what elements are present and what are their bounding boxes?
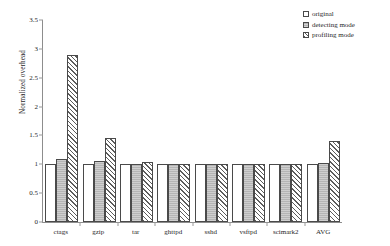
- bar-gzip-profiling-mode: [105, 138, 116, 222]
- y-axis-tick-mark: [39, 48, 43, 49]
- bar-sshd-original: [195, 164, 206, 222]
- y-axis-tick-mark: [39, 20, 43, 21]
- bar-ghttpd-original: [157, 164, 168, 222]
- bar-groups: [43, 20, 342, 222]
- x-axis-tick-label: sshd: [192, 228, 230, 236]
- x-axis-tick-label: tar: [117, 228, 155, 236]
- y-axis-tick-mark: [39, 193, 43, 194]
- bar-AVG-profiling-mode: [329, 141, 340, 222]
- bar-group: [230, 20, 267, 222]
- bar-AVG-detecting-mode: [318, 163, 329, 222]
- legend-label-detecting-mode: detecting mode: [312, 21, 355, 29]
- y-axis-tick-mark: [39, 106, 43, 107]
- bar-scimark2-detecting-mode: [280, 164, 291, 222]
- legend-item-profiling-mode: profiling mode: [303, 31, 355, 39]
- bar-AVG-original: [307, 164, 318, 222]
- legend-swatch-profiling-mode: [303, 32, 309, 38]
- y-axis-tick-mark: [39, 77, 43, 78]
- bar-group: [80, 20, 117, 222]
- legend-item-detecting-mode: detecting mode: [303, 21, 355, 29]
- bar-scimark2-original: [269, 164, 280, 222]
- plot-area: 00.511.522.533.5: [42, 20, 342, 223]
- y-axis-tick-mark: [39, 135, 43, 136]
- legend-label-profiling-mode: profiling mode: [312, 31, 354, 39]
- bar-vsftpd-detecting-mode: [243, 164, 254, 222]
- bar-sshd-detecting-mode: [206, 164, 217, 222]
- x-axis-tick-label: ctags: [42, 228, 80, 236]
- bar-gzip-original: [83, 164, 94, 222]
- x-axis-tick-mark: [229, 222, 230, 226]
- x-axis-tick-mark: [117, 222, 118, 226]
- bar-vsftpd-profiling-mode: [254, 164, 265, 222]
- bar-sshd-profiling-mode: [217, 164, 228, 222]
- bar-group: [118, 20, 155, 222]
- y-axis-tick-mark: [39, 222, 43, 223]
- bar-ctags-original: [45, 164, 56, 222]
- x-axis-tick-label: scimark2: [267, 228, 305, 236]
- bar-ctags-profiling-mode: [67, 55, 78, 222]
- bar-group: [193, 20, 230, 222]
- bar-ctags-detecting-mode: [56, 159, 67, 222]
- bar-ghttpd-detecting-mode: [168, 164, 179, 222]
- y-axis-tick-mark: [39, 164, 43, 165]
- legend-swatch-original: [303, 11, 309, 17]
- x-axis-tick-mark: [155, 222, 156, 226]
- x-axis-tick-mark: [192, 222, 193, 226]
- bar-tar-detecting-mode: [131, 164, 142, 222]
- legend-swatch-detecting-mode: [303, 22, 309, 28]
- x-axis-tick-label: vsftpd: [230, 228, 268, 236]
- legend-item-original: original: [303, 10, 355, 18]
- bar-scimark2-profiling-mode: [291, 164, 302, 222]
- bar-tar-original: [120, 164, 131, 222]
- x-axis-tick-mark: [80, 222, 81, 226]
- bar-ghttpd-profiling-mode: [179, 164, 190, 222]
- bar-group: [267, 20, 304, 222]
- x-axis-tick-mark: [267, 222, 268, 226]
- legend-label-original: original: [312, 10, 334, 18]
- bar-group: [305, 20, 342, 222]
- x-axis-tick-label: AVG: [305, 228, 343, 236]
- x-axis-tick-labels: ctagsgziptarghttpdsshdvsftpdscimark2AVG: [42, 228, 342, 236]
- bar-tar-profiling-mode: [142, 162, 153, 222]
- x-axis-tick-mark: [304, 222, 305, 226]
- x-axis-tick-label: ghttpd: [155, 228, 193, 236]
- bar-vsftpd-original: [232, 164, 243, 222]
- bar-group: [155, 20, 192, 222]
- chart-legend: original detecting mode profiling mode: [303, 10, 355, 39]
- normalized-overhead-bar-chart: Normalized overhead 00.511.522.533.5 cta…: [0, 0, 390, 246]
- bar-group: [43, 20, 80, 222]
- x-axis-tick-label: gzip: [80, 228, 118, 236]
- bar-gzip-detecting-mode: [94, 161, 105, 222]
- y-axis-title: Normalized overhead: [19, 12, 27, 152]
